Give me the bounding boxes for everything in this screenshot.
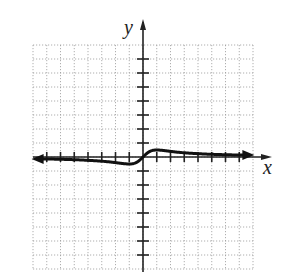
curve-left-arrow-icon: [32, 154, 44, 164]
axes: [33, 22, 268, 272]
y-axis-arrow-icon: [140, 19, 146, 30]
x-axis-label: x: [262, 156, 272, 178]
function-graph: y x: [0, 0, 286, 275]
curve-right-arrow-icon: [242, 150, 254, 160]
y-axis-label: y: [122, 16, 133, 39]
